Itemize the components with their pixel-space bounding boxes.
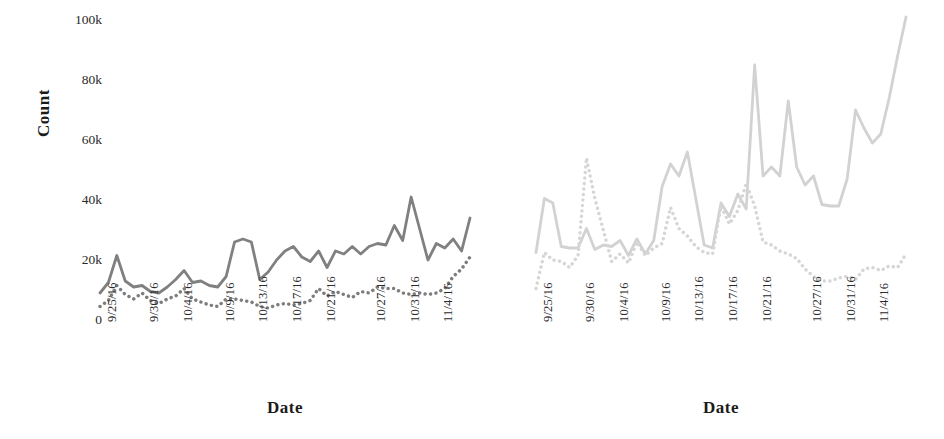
x-tick-label: 10/13/16 — [256, 276, 271, 322]
series-line-dotted-series-right — [536, 158, 906, 289]
x-tick-label: 10/21/16 — [760, 276, 775, 322]
x-axis-tick-labels-left: 9/25/169/30/1610/4/1610/9/1610/13/1610/1… — [100, 322, 470, 402]
x-tick-label: 10/4/16 — [181, 282, 196, 322]
x-tick-label: 10/17/16 — [290, 276, 305, 322]
y-axis-title: Count — [34, 58, 54, 168]
x-tick-label: 10/4/16 — [617, 282, 632, 322]
y-tick-label: 80k — [82, 73, 102, 87]
x-tick-label: 10/13/16 — [692, 276, 707, 322]
x-tick-label: 9/30/16 — [147, 282, 162, 322]
x-tick-label: 10/9/16 — [659, 282, 674, 322]
x-tick-label: 10/27/16 — [374, 276, 389, 322]
x-tick-label: 10/31/16 — [844, 276, 859, 322]
x-tick-label: 10/31/16 — [408, 276, 423, 322]
chart-panel-right: 9/25/169/30/1610/4/1610/9/1610/13/1610/1… — [500, 0, 944, 439]
x-tick-label: 11/4/16 — [441, 283, 456, 322]
x-tick-label: 10/21/16 — [324, 276, 339, 322]
chart-panel-left: Count 020k40k60k80k100k 9/25/169/30/1610… — [0, 0, 500, 439]
dual-line-chart-figure: Count 020k40k60k80k100k 9/25/169/30/1610… — [0, 0, 944, 439]
y-axis-tick-labels-left: 020k40k60k80k100k — [56, 0, 102, 439]
x-tick-label: 10/17/16 — [726, 276, 741, 322]
x-tick-label: 9/25/16 — [105, 282, 120, 322]
x-tick-label: 9/30/16 — [583, 282, 598, 322]
x-tick-label: 10/9/16 — [223, 282, 238, 322]
x-axis-title-right: Date — [536, 398, 906, 418]
series-line-solid-series-right — [536, 17, 906, 256]
x-tick-label: 9/25/16 — [541, 282, 556, 322]
y-tick-label: 100k — [75, 13, 102, 27]
y-tick-label: 60k — [82, 133, 102, 147]
x-axis-title-left: Date — [100, 398, 470, 418]
x-tick-label: 10/27/16 — [810, 276, 825, 322]
x-axis-tick-labels-right: 9/25/169/30/1610/4/1610/9/1610/13/1610/1… — [536, 322, 906, 402]
y-tick-label: 20k — [82, 253, 102, 267]
y-tick-label: 40k — [82, 193, 102, 207]
x-tick-label: 11/4/16 — [877, 283, 892, 322]
